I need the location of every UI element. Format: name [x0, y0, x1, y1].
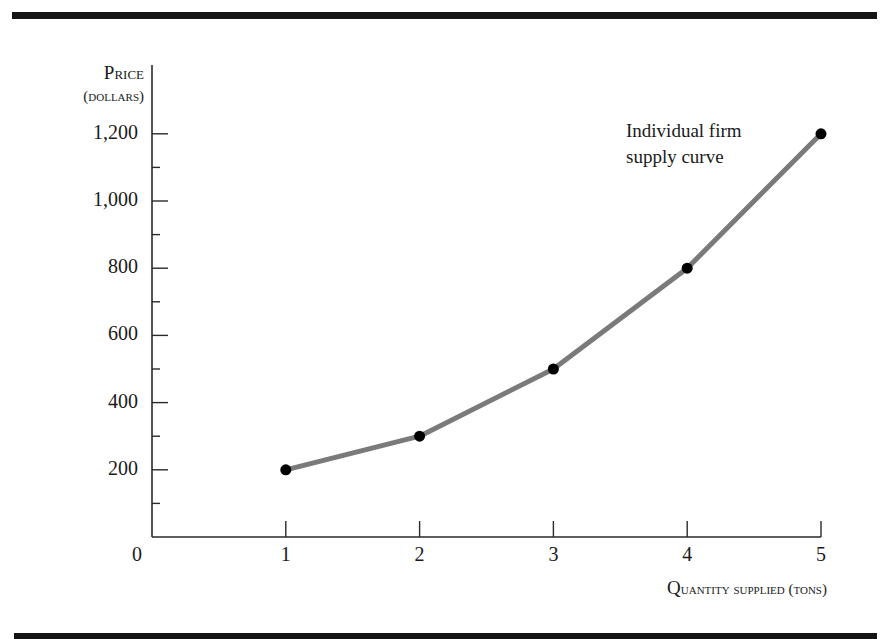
supply-curve-line: [286, 134, 821, 470]
x-axis-title-rest: uantity supplied (tons): [681, 581, 827, 597]
x-tick-label: 3: [538, 543, 568, 566]
y-tick-label: 400: [58, 390, 138, 413]
x-tick-label: 5: [806, 543, 836, 566]
x-tick-label: 1: [271, 543, 301, 566]
annotation-line-2: supply curve: [626, 144, 742, 170]
y-tick-label: 200: [58, 457, 138, 480]
x-tick-label: 4: [672, 543, 702, 566]
data-point-marker: [548, 364, 559, 375]
y-axis-title-initial: P: [104, 62, 115, 83]
y-tick-label: 800: [58, 255, 138, 278]
y-axis-title-rest: rice: [114, 62, 144, 83]
curve-annotation: Individual firm supply curve: [626, 118, 742, 170]
y-tick-label: 1,200: [58, 121, 138, 144]
annotation-line-1: Individual firm: [626, 118, 742, 144]
x-axis-title: Quantity supplied (tons): [667, 577, 827, 599]
data-point-marker: [414, 431, 425, 442]
supply-curve-series: [280, 128, 826, 475]
x-tick-label: 2: [405, 543, 435, 566]
y-axis-units: (dollars): [24, 88, 144, 105]
x-axis-title-initial: Q: [667, 577, 681, 598]
y-tick-label: 1,000: [58, 188, 138, 211]
data-point-marker: [816, 128, 827, 139]
data-point-marker: [682, 263, 693, 274]
y-axis-title: Price: [24, 62, 144, 84]
y-tick-label: 600: [58, 322, 138, 345]
origin-label: 0: [122, 543, 152, 566]
data-point-marker: [280, 464, 291, 475]
